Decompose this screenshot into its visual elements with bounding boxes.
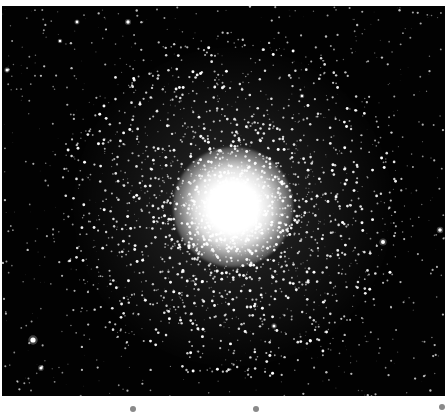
star-cluster-photo <box>2 6 445 396</box>
marker-dot <box>439 404 445 410</box>
marker-dot <box>130 406 136 412</box>
star-field <box>2 6 445 396</box>
marker-dot <box>253 406 259 412</box>
